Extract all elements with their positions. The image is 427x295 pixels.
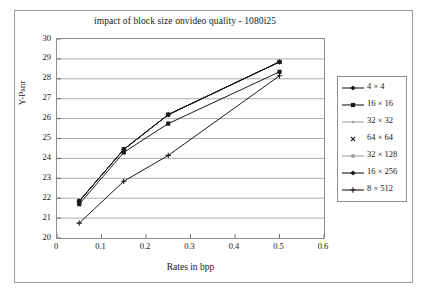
plot-area (56, 38, 325, 239)
legend-label: 64 × 64 (365, 132, 393, 142)
y-tick-label: 27 (29, 93, 51, 102)
legend-item-3232[interactable]: 32 × 32 (338, 111, 406, 128)
y-tick-label: 28 (29, 73, 51, 82)
legend-marker-icon (341, 182, 365, 194)
legend-item-44[interactable]: 4 × 4 (338, 77, 406, 94)
chart-figure: impact of block size onvideo quality - 1… (0, 0, 427, 295)
y-tick-label: 22 (29, 193, 51, 202)
series-32128 (77, 60, 281, 203)
legend-marker-icon (341, 131, 365, 143)
legend-marker-icon (341, 148, 365, 160)
data-point-marker (351, 102, 355, 106)
data-point-marker (277, 70, 281, 74)
data-point-marker (350, 170, 355, 175)
x-axis-title: Rates in bpp (56, 262, 325, 272)
legend-label: 32 × 128 (365, 149, 397, 159)
x-tick-label: 0.1 (86, 242, 116, 251)
y-tick-label: 26 (29, 113, 51, 122)
legend-item-8512[interactable]: 8 × 512 (338, 179, 406, 196)
x-tick-label: 0.2 (130, 242, 160, 251)
x-tick-label: 0.3 (175, 242, 205, 251)
series-line (79, 62, 279, 201)
series-8512 (77, 73, 283, 226)
data-point-marker (351, 153, 355, 157)
data-point-marker (351, 136, 355, 140)
series-line (79, 62, 279, 201)
legend-item-16256[interactable]: 16 × 256 (338, 162, 406, 179)
y-tick-label: 30 (29, 34, 51, 43)
legend-label: 8 × 512 (365, 183, 393, 193)
y-tick-label: 21 (29, 213, 51, 222)
x-tick-label: 0.4 (219, 242, 249, 251)
legend-label: 16 × 16 (365, 98, 393, 108)
x-tick-label: 0.6 (308, 242, 338, 251)
series-line (79, 62, 279, 201)
y-tick-label: 29 (29, 53, 51, 62)
series-6464 (77, 60, 281, 204)
data-point-marker (352, 120, 355, 123)
series-line (79, 76, 279, 223)
y-tick-label: 24 (29, 153, 51, 162)
series-line (79, 72, 279, 204)
y-tick-label: 25 (29, 133, 51, 142)
legend-label: 4 × 4 (365, 81, 385, 91)
x-tick-label: 0.5 (264, 242, 294, 251)
series-1616 (77, 70, 281, 207)
data-point-marker (166, 121, 170, 125)
legend-label: 32 × 32 (365, 115, 393, 125)
data-point-marker (350, 187, 355, 192)
x-tick-label: 0 (41, 242, 71, 251)
legend-marker-icon (341, 80, 365, 92)
series-16256 (77, 59, 282, 204)
y-tick-label: 20 (29, 233, 51, 242)
chart-title: impact of block size onvideo quality - 1… (40, 16, 330, 26)
legend-label: 16 × 256 (365, 166, 397, 176)
chart-legend: 4 × 416 × 1632 × 3264 × 6432 × 12816 × 2… (337, 76, 407, 202)
y-tick-label: 23 (29, 173, 51, 182)
legend-marker-icon (341, 165, 365, 177)
legend-item-1616[interactable]: 16 × 16 (338, 94, 406, 111)
y-axis-title: Y-Psnr (17, 63, 27, 123)
legend-marker-icon (341, 114, 365, 126)
series-3232 (78, 61, 281, 203)
series-line (79, 62, 279, 201)
series-44 (77, 59, 282, 204)
legend-marker-icon (341, 97, 365, 109)
series-line (79, 62, 279, 201)
plot-svg (57, 39, 324, 238)
legend-item-32128[interactable]: 32 × 128 (338, 145, 406, 162)
data-point-marker (350, 85, 355, 90)
legend-item-6464[interactable]: 64 × 64 (338, 128, 406, 145)
